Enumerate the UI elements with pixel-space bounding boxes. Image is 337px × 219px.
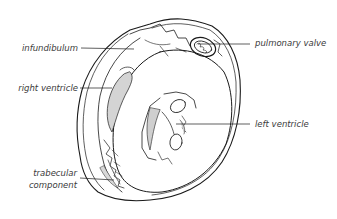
left-ventricle-cavity [142,92,196,164]
right-ventricle-cavity [107,72,132,132]
label-trabecular-line1: trabecular [0,168,77,178]
label-infundibulum: infundibulum [0,43,78,53]
heart-diagram: infundibulum right ventricle trabecular … [0,0,337,219]
trabecular-component [104,140,124,188]
label-trabecular-line2: component [0,180,77,190]
label-pulmonary-valve: pulmonary valve [255,38,326,48]
label-left-ventricle: left ventricle [255,119,309,129]
left-ventricle-wall [113,50,232,192]
label-right-ventricle: right ventricle [0,83,78,93]
pulmonary-valve-shape [188,34,222,60]
